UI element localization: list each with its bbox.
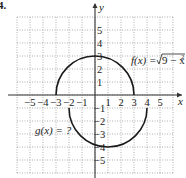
- graph-figure: −5−4−3−2−11234554321−1−2−3−4−5 4. y x f(…: [0, 0, 186, 178]
- svg-text:f(x) =: f(x) =: [131, 54, 156, 67]
- x-tick-label: 4: [144, 97, 150, 108]
- x-tick-label: 3: [131, 97, 136, 108]
- x-tick-label: −5: [24, 97, 35, 108]
- x-tick-label: −1: [76, 97, 87, 108]
- x-axis-label: x: [177, 95, 183, 107]
- y-tick-label: 1: [97, 77, 102, 88]
- y-tick-label: 3: [97, 51, 102, 62]
- x-tick-label: 1: [105, 97, 110, 108]
- y-tick-label: −2: [94, 116, 105, 127]
- g-label: g(x) = ?: [35, 124, 72, 137]
- y-tick-label: −3: [94, 129, 105, 140]
- y-tick-label: 5: [97, 25, 102, 36]
- x-tick-label: −2: [63, 97, 74, 108]
- x-tick-label: 5: [157, 97, 162, 108]
- y-tick-label: 4: [97, 38, 103, 49]
- y-tick-label: 2: [97, 64, 102, 75]
- x-tick-label: 2: [118, 97, 123, 108]
- f-label-exponent: 2: [181, 53, 185, 61]
- y-tick-label: −4: [94, 142, 106, 153]
- y-tick-label: −1: [94, 103, 105, 114]
- f-label-prefix: f(x) =: [131, 54, 156, 67]
- y-axis-label: y: [98, 1, 104, 13]
- f-label: f(x) = 9 − x 2: [131, 53, 185, 67]
- y-tick-label: −5: [94, 155, 105, 166]
- problem-number: 4.: [0, 0, 7, 11]
- y-axis-arrow-icon: [93, 3, 98, 8]
- x-tick-label: −3: [50, 97, 61, 108]
- x-tick-label: −4: [37, 97, 49, 108]
